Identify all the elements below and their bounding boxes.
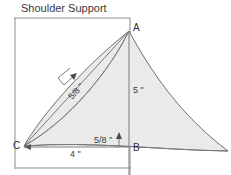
right-lobe-region <box>24 31 228 151</box>
dimension-base-width: 4 " <box>70 149 81 159</box>
point-label-b: B <box>133 142 140 153</box>
tick-mark-icon <box>58 78 64 85</box>
shoulder-support-drawing: Shoulder Support A B C 5/8 " 5 " 5/8 " 4… <box>0 0 231 175</box>
point-label-c: C <box>13 140 20 151</box>
page-title: Shoulder Support <box>21 2 107 14</box>
dimension-vertical-height: 5 " <box>133 85 144 95</box>
technical-drawing-canvas: Shoulder Support A B C 5/8 " 5 " 5/8 " 4… <box>0 0 231 175</box>
dimension-base-rise: 5/8 " <box>94 135 112 145</box>
point-label-a: A <box>133 22 140 33</box>
tick-mark-icon-upper <box>58 68 70 78</box>
support-shape <box>24 31 228 151</box>
